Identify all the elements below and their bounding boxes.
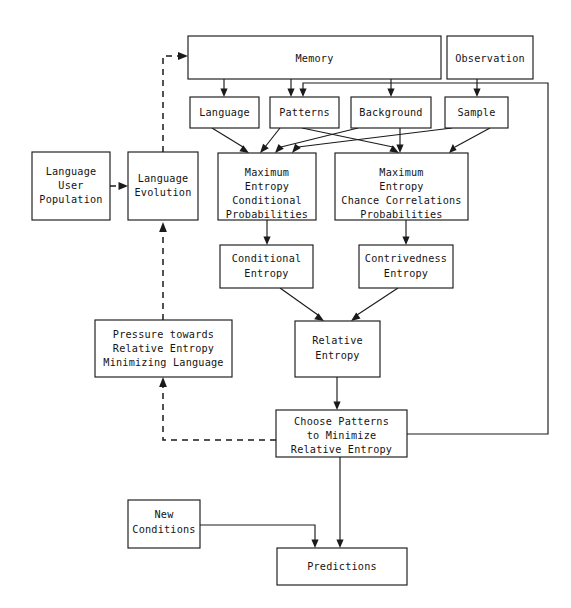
node-memory[interactable]: Memory [188, 36, 441, 79]
edge-choose-patterns-to-predictions [336, 457, 343, 548]
node-predictions[interactable]: Predictions [277, 548, 407, 585]
node-new-conditions-label-line1: New [154, 509, 174, 520]
edge-background-to-maxent-chance [396, 128, 403, 153]
node-patterns[interactable]: Patterns [270, 97, 339, 128]
edge-maxent-cond-to-cond-entropy [263, 220, 270, 245]
edge-sample-to-maxent-cond [292, 128, 452, 153]
edge-observation-to-sample [473, 79, 480, 97]
node-background[interactable]: Background [351, 97, 431, 128]
node-predictions-label: Predictions [307, 561, 377, 572]
node-choose-patterns-label-line1: Choose Patterns [294, 416, 389, 427]
node-relative-entropy-label-line1: Relative [312, 335, 363, 346]
node-sample-label: Sample [457, 107, 495, 118]
node-relative-entropy-label-line2: Entropy [315, 350, 359, 361]
node-contrivedness-entropy-label-line2: Entropy [384, 268, 428, 279]
node-conditional-entropy[interactable]: Conditional Entropy [220, 245, 313, 288]
node-language-user-population[interactable]: Language User Population [32, 152, 110, 220]
edge-memory-to-background [387, 79, 394, 97]
node-maximum-entropy-chance-correlations-probabilities[interactable]: Maximum Entropy Chance Correlations Prob… [335, 153, 468, 220]
node-choose-patterns-label-line3: Relative Entropy [291, 444, 392, 455]
node-choose-patterns-label-line2: to Minimize [307, 430, 377, 441]
edge-background-to-maxent-cond [275, 128, 358, 153]
flowchart-diagram: Memory Observation Language Patterns Bac… [0, 0, 571, 608]
node-language-label: Language [199, 107, 250, 118]
node-sample[interactable]: Sample [445, 97, 508, 128]
edge-memory-to-language [220, 79, 227, 97]
edge-cond-entropy-to-rel-entropy [280, 288, 324, 321]
node-observation-label: Observation [455, 53, 525, 64]
node-maxent-cond-label-line2: Entropy [245, 181, 289, 192]
edge-maxent-chance-to-contriv-entropy [402, 220, 409, 245]
node-choose-patterns-to-minimize-relative-entropy[interactable]: Choose Patterns to Minimize Relative Ent… [276, 410, 407, 457]
edge-contriv-entropy-to-rel-entropy [351, 288, 398, 321]
node-language[interactable]: Language [190, 97, 259, 128]
node-language-user-population-label-line2: User [58, 180, 83, 191]
edge-new-conditions-to-predictions [200, 525, 319, 548]
node-relative-entropy[interactable]: Relative Entropy [295, 321, 380, 377]
node-observation[interactable]: Observation [447, 36, 533, 79]
node-layer: Memory Observation Language Patterns Bac… [32, 36, 533, 585]
node-conditional-entropy-label-line1: Conditional [232, 253, 302, 264]
node-new-conditions[interactable]: New Conditions [128, 500, 200, 548]
node-pressure-label-line2: Relative Entropy [113, 343, 214, 354]
node-contrivedness-entropy-label-line1: Contrivedness [365, 253, 447, 264]
node-language-evolution[interactable]: Language Evolution [128, 152, 198, 220]
node-memory-label: Memory [295, 53, 333, 64]
node-patterns-label: Patterns [279, 107, 330, 118]
node-maxent-cond-label-line4: Probabilities [226, 209, 308, 220]
edge-lang-evol-to-memory [163, 52, 188, 152]
edge-memory-to-patterns [287, 79, 294, 97]
node-contrivedness-entropy[interactable]: Contrivedness Entropy [359, 245, 453, 288]
node-pressure-label-line3: Minimizing Language [103, 357, 223, 368]
edge-language-to-maxent-cond [212, 128, 249, 153]
node-maxent-chance-label-line4: Probabilities [360, 209, 442, 220]
node-maxent-chance-label-line1: Maximum [379, 167, 423, 178]
node-conditional-entropy-label-line2: Entropy [244, 268, 288, 279]
node-maxent-chance-label-line2: Entropy [379, 181, 423, 192]
node-background-label: Background [359, 107, 422, 118]
node-language-evolution-label-line1: Language [138, 173, 189, 184]
node-pressure-label-line1: Pressure towards [113, 329, 214, 340]
node-maximum-entropy-conditional-probabilities[interactable]: Maximum Entropy Conditional Probabilitie… [218, 153, 316, 220]
node-maxent-chance-label-line3: Chance Correlations [341, 195, 461, 206]
edge-sample-to-maxent-chance [449, 128, 490, 153]
edge-lang-user-pop-to-lang-evol [110, 182, 128, 190]
edge-rel-entropy-to-choose-patterns [333, 377, 340, 410]
node-pressure-towards-relative-entropy-minimizing-language[interactable]: Pressure towards Relative Entropy Minimi… [95, 320, 232, 377]
edge-choose-patterns-to-pressure [159, 377, 276, 440]
node-language-user-population-label-line3: Population [39, 194, 102, 205]
edge-pressure-to-lang-evol [159, 222, 167, 320]
node-new-conditions-label-line2: Conditions [132, 524, 195, 535]
flowchart-canvas: Memory Observation Language Patterns Bac… [0, 0, 571, 608]
node-language-user-population-label-line1: Language [46, 166, 97, 177]
node-language-evolution-label-line2: Evolution [134, 187, 191, 198]
node-maxent-cond-label-line3: Conditional [232, 195, 302, 206]
node-maxent-cond-label-line1: Maximum [245, 167, 289, 178]
